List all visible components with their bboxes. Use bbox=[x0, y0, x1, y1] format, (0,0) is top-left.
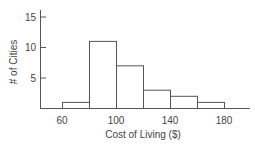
x-ticks-group: 60100140180 bbox=[56, 115, 232, 126]
y-ticks-group: 51015 bbox=[25, 12, 46, 84]
x-axis-title: Cost of Living ($) bbox=[105, 129, 181, 140]
x-tick-label-60: 60 bbox=[56, 115, 68, 126]
y-axis-title: # of Cities bbox=[8, 40, 19, 84]
y-tick-label-5: 5 bbox=[30, 73, 36, 84]
histogram-bar-160-180 bbox=[198, 102, 225, 108]
histogram-bar-80-100 bbox=[90, 41, 117, 108]
histogram-bar-120-140 bbox=[144, 90, 171, 108]
x-tick-label-140: 140 bbox=[162, 115, 179, 126]
y-tick-label-10: 10 bbox=[25, 42, 37, 53]
x-tick-label-100: 100 bbox=[108, 115, 125, 126]
bars-group bbox=[63, 41, 225, 108]
histogram-bar-60-80 bbox=[63, 102, 90, 108]
histogram-chart: 60100140180 51015 Cost of Living ($) # o… bbox=[0, 0, 255, 150]
y-tick-label-15: 15 bbox=[25, 12, 37, 23]
x-tick-label-180: 180 bbox=[216, 115, 233, 126]
histogram-bar-100-120 bbox=[117, 66, 144, 109]
histogram-bar-140-160 bbox=[171, 96, 198, 108]
